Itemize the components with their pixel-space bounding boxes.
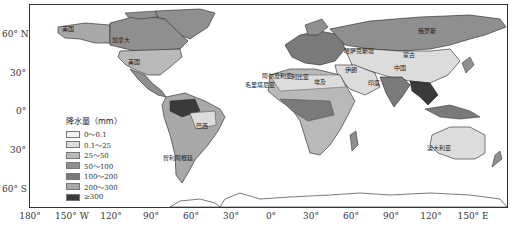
country-label-russia: 俄罗斯 — [418, 26, 436, 35]
legend-swatch — [66, 183, 80, 190]
x-tick-180: 180° — [19, 211, 41, 221]
legend-label: 200～300 — [84, 182, 118, 192]
country-label-india: 印度 — [368, 78, 380, 87]
southeast-asia — [410, 81, 438, 105]
y-tick-60s: 60° S — [2, 184, 27, 194]
india — [380, 77, 410, 107]
europe — [285, 31, 345, 65]
x-tick-120w: 120° — [100, 211, 122, 221]
x-tick-150w: 150° W — [55, 211, 89, 221]
legend-item: 100～200 — [66, 171, 128, 181]
legend-item: 0.1～25 — [66, 140, 128, 150]
country-label-egypt: 埃及 — [314, 77, 326, 86]
country-label-canada: 加拿大 — [112, 35, 130, 44]
x-tick-90e: 90° — [383, 211, 399, 221]
x-tick-60w: 60° — [183, 211, 199, 221]
country-label-alaska: 美国 — [62, 24, 74, 33]
legend-label: 100～200 — [84, 171, 118, 181]
legend-label: 0～0.1 — [84, 129, 107, 139]
map-legend: 降水量（mm） 0～0.1 0.1～25 25～50 50～100 100～20… — [66, 115, 128, 203]
y-tick-30s: 30° — [10, 145, 26, 155]
country-label-australia: 澳大利亚 — [427, 143, 451, 152]
country-label-mauritania: 毛里塔尼亚 — [245, 80, 275, 89]
x-tick-90w: 90° — [143, 211, 159, 221]
country-label-china: 中国 — [394, 63, 406, 72]
x-tick-60e: 60° — [343, 211, 359, 221]
country-label-chile-argentina: 智利阿根廷 — [163, 153, 193, 162]
x-tick-30e: 30° — [303, 211, 319, 221]
legend-swatch — [66, 194, 80, 201]
y-tick-0: 0° — [16, 106, 26, 116]
legend-item: 50～100 — [66, 161, 128, 171]
country-label-brazil: 巴西 — [196, 121, 208, 130]
legend-item: 0～0.1 — [66, 129, 128, 139]
legend-swatch — [66, 162, 80, 169]
antarctica — [220, 193, 507, 207]
y-tick-30n: 30° — [10, 68, 26, 78]
x-tick-30w: 30° — [223, 211, 239, 221]
country-label-libya: 利比亚 — [291, 72, 309, 81]
legend-swatch — [66, 131, 80, 138]
legend-label: 0.1～25 — [84, 140, 111, 150]
country-label-mongolia: 蒙古 — [403, 50, 415, 59]
x-tick-120e: 120° — [420, 211, 442, 221]
country-label-iran: 伊朗 — [345, 65, 357, 74]
legend-label: 25～50 — [84, 150, 109, 160]
legend-label: ≥300 — [84, 193, 103, 201]
country-label-kazakhstan: 哈萨克斯坦 — [344, 46, 374, 55]
legend-title: 降水量（mm） — [66, 115, 128, 126]
y-tick-60n: 60° N — [2, 29, 29, 39]
legend-swatch — [66, 152, 80, 159]
country-label-algeria: 阿尔及利亚 — [262, 71, 292, 80]
map-frame: 降水量（mm） 0～0.1 0.1～25 25～50 50～100 100～20… — [29, 4, 508, 208]
legend-item: ≥300 — [66, 192, 128, 202]
legend-item: 200～300 — [66, 182, 128, 192]
x-tick-0: 0° — [266, 211, 276, 221]
legend-label: 50～100 — [84, 161, 113, 171]
legend-swatch — [66, 141, 80, 148]
legend-swatch — [66, 173, 80, 180]
x-tick-150e: 150° E — [457, 211, 488, 221]
legend-item: 25～50 — [66, 150, 128, 160]
country-label-usa: 美国 — [128, 57, 140, 66]
